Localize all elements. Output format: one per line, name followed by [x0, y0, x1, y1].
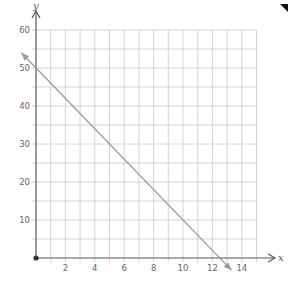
grid [32, 30, 257, 262]
x-axis-label: x [278, 252, 284, 263]
series-line [21, 53, 231, 270]
x-tick-label: 2 [63, 263, 68, 273]
x-tick-label: 12 [207, 263, 218, 273]
y-tick-label: 10 [19, 215, 30, 225]
line-chart: 2468101214102030405060 x y [0, 0, 292, 288]
x-tick-label: 4 [92, 263, 97, 273]
y-axis-label: y [32, 0, 39, 11]
x-tick-label: 14 [236, 263, 247, 273]
corner-triangle-icon [280, 4, 288, 12]
tick-labels: 2468101214102030405060 [19, 25, 247, 273]
y-tick-label: 30 [19, 139, 30, 149]
x-tick-label: 8 [151, 263, 156, 273]
data-series [21, 53, 231, 270]
y-tick-label: 50 [19, 63, 30, 73]
origin-dot [33, 255, 38, 260]
y-tick-label: 60 [19, 25, 30, 35]
x-tick-label: 6 [121, 263, 126, 273]
y-tick-label: 40 [19, 101, 30, 111]
x-tick-label: 10 [178, 263, 189, 273]
y-tick-label: 20 [19, 177, 30, 187]
